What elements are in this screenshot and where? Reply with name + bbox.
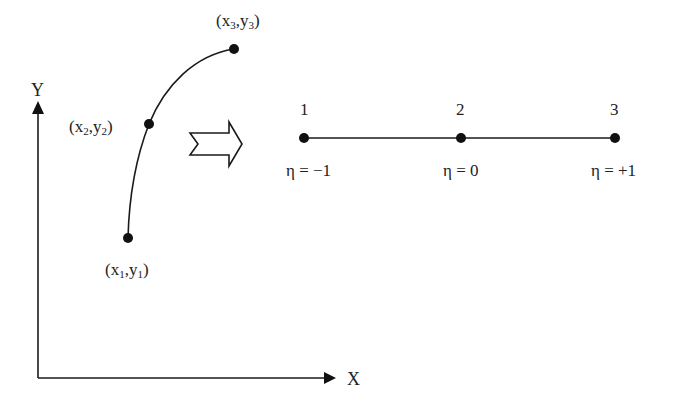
global-axes: [32, 101, 336, 384]
x-axis-arrowhead-icon: [324, 372, 336, 384]
x-axis-label: X: [347, 370, 360, 388]
curved-node-1-label: (x1,y1): [105, 261, 149, 280]
curved-node-2: [144, 119, 154, 129]
curved-node-3: [229, 44, 239, 54]
natural-node-3-eta-label: η = +1: [591, 162, 636, 179]
y-axis-label: Y: [31, 81, 44, 99]
curved-node-1: [123, 233, 133, 243]
y-axis-arrowhead-icon: [32, 101, 44, 114]
natural-node-3: [610, 133, 620, 143]
natural-node-1-eta-label: η = −1: [286, 162, 331, 179]
natural-node-1-number: 1: [300, 101, 309, 118]
diagram-canvas: [0, 0, 673, 406]
natural-node-3-number: 3: [610, 101, 619, 118]
natural-node-1: [299, 133, 309, 143]
curved-node-3-label: (x3,y3): [216, 12, 260, 31]
natural-node-2: [456, 133, 466, 143]
curved-node-2-label: (x2,y2): [69, 118, 113, 137]
natural-node-2-eta-label: η = 0: [443, 162, 478, 179]
hollow-right-arrow-icon: [190, 122, 242, 166]
natural-node-2-number: 2: [456, 101, 465, 118]
